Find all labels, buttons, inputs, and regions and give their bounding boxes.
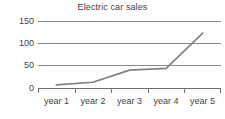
- y-axis-labels: 150 100 50 0: [0, 0, 34, 119]
- x-axis-tick: [38, 89, 39, 93]
- series-line-electric-car-sales: [38, 21, 221, 88]
- x-tick-label-year-2: year 2: [75, 96, 111, 107]
- x-tick-label-year-1: year 1: [38, 96, 75, 107]
- x-tick-label-year-4: year 4: [148, 96, 184, 107]
- x-axis-tick: [220, 89, 221, 93]
- x-tick-label-year-5: year 5: [184, 96, 221, 107]
- x-axis-tick: [111, 89, 112, 93]
- x-axis-line: [38, 88, 221, 89]
- x-axis-tick: [148, 89, 149, 93]
- x-tick-label-year-3: year 3: [111, 96, 148, 107]
- y-tick-label-150: 150: [4, 17, 34, 26]
- y-tick-label-0: 0: [4, 84, 34, 93]
- x-axis-tick: [184, 89, 185, 93]
- x-axis-labels: year 1 year 2 year 3 year 4 year 5: [38, 96, 221, 112]
- plot-area: [38, 21, 221, 88]
- y-tick-label-100: 100: [4, 39, 34, 48]
- y-tick-label-50: 50: [4, 61, 34, 70]
- line-chart: Electric car sales 150 100 50 0 year 1 y…: [0, 0, 225, 119]
- x-axis-tick: [75, 89, 76, 93]
